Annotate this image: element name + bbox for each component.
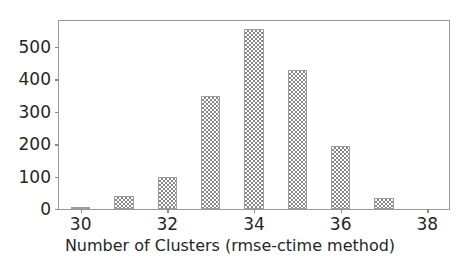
plot-area: [59, 21, 449, 209]
x-tick-34: [254, 209, 255, 213]
y-tick-500: [55, 47, 59, 48]
bar-36: [331, 146, 351, 209]
bar-33: [201, 96, 221, 209]
y-tick-0: [55, 209, 59, 210]
x-tick-label-38: 38: [417, 216, 439, 233]
bar-37: [374, 198, 394, 209]
histogram-figure: 01002003004005003032343638 Number of Clu…: [0, 0, 460, 268]
y-tick-label-400: 400: [19, 71, 51, 88]
y-tick-label-300: 300: [19, 103, 51, 120]
y-tick-400: [55, 79, 59, 80]
y-tick-label-0: 0: [40, 201, 51, 218]
y-tick-300: [55, 112, 59, 113]
x-tick-32: [167, 209, 168, 213]
x-tick-label-32: 32: [157, 216, 179, 233]
y-tick-200: [55, 144, 59, 145]
bar-31: [114, 196, 134, 209]
y-tick-100: [55, 177, 59, 178]
x-tick-38: [427, 209, 428, 213]
y-tick-label-100: 100: [19, 168, 51, 185]
y-tick-label-500: 500: [19, 38, 51, 55]
x-tick-label-34: 34: [243, 216, 265, 233]
x-tick-label-30: 30: [70, 216, 92, 233]
bar-32: [158, 177, 178, 209]
bar-35: [288, 70, 308, 209]
x-tick-label-36: 36: [330, 216, 352, 233]
y-tick-label-200: 200: [19, 136, 51, 153]
x-axis-label: Number of Clusters (rmse-ctime method): [0, 238, 460, 254]
x-tick-30: [81, 209, 82, 213]
plot-axes: 01002003004005003032343638: [58, 20, 450, 210]
bar-34: [244, 29, 264, 209]
x-tick-36: [341, 209, 342, 213]
